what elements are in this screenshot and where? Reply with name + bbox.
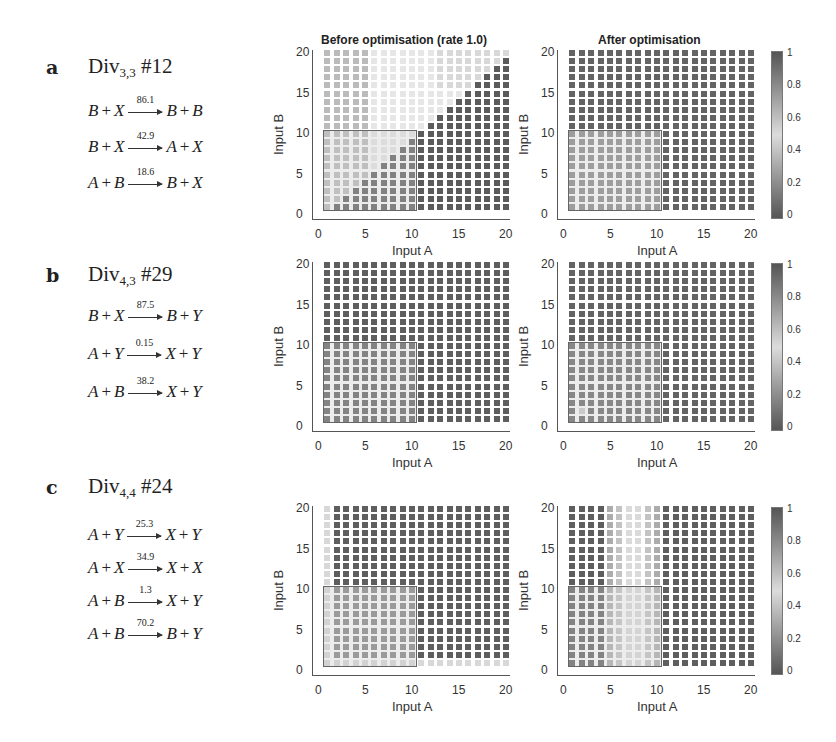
heatmap-cell xyxy=(673,408,679,414)
heatmap-cell xyxy=(437,506,443,512)
heatmap-cell xyxy=(607,327,613,333)
heatmap-cell xyxy=(447,286,453,292)
heatmap-cell xyxy=(635,571,641,577)
heatmap-cell xyxy=(569,579,575,585)
heatmap-cell xyxy=(739,66,745,72)
heatmap-cell xyxy=(484,359,490,365)
heatmap-cell xyxy=(494,359,500,365)
heatmap-cell xyxy=(484,514,490,520)
plus-sign: + xyxy=(101,344,111,363)
heatmap-cell xyxy=(447,400,453,406)
x-tick-label: 15 xyxy=(697,439,710,453)
heatmap-cell xyxy=(428,384,434,390)
heatmap-cell xyxy=(598,506,604,512)
heatmap-cell xyxy=(739,611,745,617)
system-name: Div xyxy=(88,262,120,286)
y-tick-label: 10 xyxy=(541,582,554,596)
system-name: Div xyxy=(88,474,120,498)
heatmap-cell xyxy=(409,123,415,129)
heatmap-cell xyxy=(692,311,698,317)
heatmap-cell xyxy=(739,628,745,634)
heatmap-cell xyxy=(626,571,632,577)
heatmap-cell xyxy=(739,636,745,642)
heatmap-cell xyxy=(484,303,490,309)
heatmap-cell xyxy=(343,270,349,276)
region-of-interest-box xyxy=(568,130,662,211)
heatmap-cell xyxy=(673,375,679,381)
heatmap-cell xyxy=(437,514,443,520)
heatmap-cell xyxy=(456,99,462,105)
heatmap-cell xyxy=(400,286,406,292)
heatmap-cell xyxy=(428,351,434,357)
heatmap-cell xyxy=(710,359,716,365)
heatmap-cell xyxy=(503,636,509,642)
heatmap-cell xyxy=(447,139,453,145)
heatmap-cell xyxy=(418,115,424,121)
heatmap-cell xyxy=(324,58,330,64)
heatmap-cell xyxy=(447,188,453,194)
heatmap-cell xyxy=(400,538,406,544)
heatmap-cell xyxy=(654,58,660,64)
heatmap-cell xyxy=(588,563,594,569)
heatmap-cell xyxy=(616,538,622,544)
heatmap-cell xyxy=(400,319,406,325)
heatmap-cell xyxy=(598,262,604,268)
plus-sign: + xyxy=(180,591,190,610)
system-name: Div xyxy=(88,54,120,78)
heatmap-cell xyxy=(673,204,679,210)
heatmap-cell xyxy=(701,66,707,72)
heatmap-cell xyxy=(673,506,679,512)
heatmap-cell xyxy=(475,555,481,561)
heatmap-cell xyxy=(418,652,424,658)
heatmap-cell xyxy=(701,547,707,553)
heatmap-cell xyxy=(381,563,387,569)
panel-letter: b xyxy=(46,264,59,286)
heatmap-cell xyxy=(607,50,613,56)
heatmap-cell xyxy=(418,547,424,553)
heatmap-cell xyxy=(588,107,594,113)
heatmap-cell xyxy=(409,522,415,528)
reactant: X xyxy=(114,306,124,325)
heatmap-cell xyxy=(353,530,359,536)
heatmap-cell xyxy=(437,603,443,609)
heatmap-cell xyxy=(692,375,698,381)
heatmap-cell xyxy=(710,50,716,56)
heatmap-cell xyxy=(428,66,434,72)
heatmap-cell xyxy=(465,359,471,365)
heatmap-cell xyxy=(437,139,443,145)
heatmap-cell xyxy=(645,547,651,553)
heatmap-cell xyxy=(409,58,415,64)
heatmap-cell xyxy=(701,579,707,585)
heatmap-cell xyxy=(381,547,387,553)
heatmap-cell xyxy=(739,522,745,528)
heatmap-cell xyxy=(324,278,330,284)
heatmap-cell xyxy=(701,107,707,113)
heatmap-cell xyxy=(569,286,575,292)
heatmap-cell xyxy=(418,327,424,333)
heatmap-cell xyxy=(428,50,434,56)
heatmap-cell xyxy=(400,303,406,309)
heatmap-cell xyxy=(418,611,424,617)
heatmap-cell xyxy=(334,99,340,105)
heatmap-cell xyxy=(371,74,377,80)
heatmap-cell xyxy=(503,123,509,129)
heatmap-cell xyxy=(692,180,698,186)
heatmap-cell xyxy=(371,530,377,536)
heatmap-cell xyxy=(447,131,453,137)
heatmap-cell xyxy=(654,278,660,284)
heatmap-cell xyxy=(428,343,434,349)
heatmap-cell xyxy=(484,400,490,406)
heatmap-cell xyxy=(437,66,443,72)
heatmap-cell xyxy=(739,147,745,153)
heatmap-cell xyxy=(692,50,698,56)
heatmap-cell xyxy=(692,351,698,357)
heatmap-cell xyxy=(710,555,716,561)
reaction-arrow-icon: 34.9 xyxy=(128,565,162,570)
heatmap-cell xyxy=(494,335,500,341)
heatmap-cell xyxy=(635,506,641,512)
heatmap-cell xyxy=(437,351,443,357)
rate-constant: 38.2 xyxy=(128,375,162,386)
heatmap-cell xyxy=(400,66,406,72)
heatmap-cell xyxy=(663,74,669,80)
heatmap-cell xyxy=(428,147,434,153)
